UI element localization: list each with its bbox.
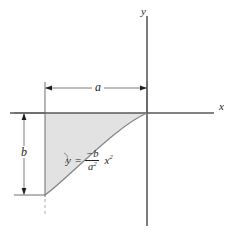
curve-equation-label: y = −b a2 x2 [66,148,113,172]
equation-lhs: y [66,154,71,166]
x-axis-label: x [219,101,224,112]
variable-exponent: 2 [109,153,113,161]
b-top-arrowhead [22,113,27,120]
b-bottom-arrowhead [22,188,27,195]
equation-equals-sign: = [75,154,81,166]
a-left-arrowhead [45,86,52,91]
equation-fraction: −b a2 [85,148,99,172]
figure-canvas [0,0,238,235]
a-right-arrowhead [140,86,147,91]
dimension-label-a: a [92,81,104,93]
fraction-numerator: −b [85,148,99,159]
y-axis-label: y [141,6,146,17]
dimension-label-b: b [18,146,30,158]
equation-x-term: x2 [104,154,112,166]
fraction-denominator: a2 [87,161,98,172]
parabola-area-figure: y x a b y = −b a2 x2 [0,0,238,235]
denominator-exponent: 2 [93,160,97,168]
